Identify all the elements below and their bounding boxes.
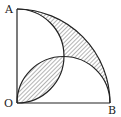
- label-O: O: [4, 98, 13, 109]
- label-A: A: [5, 4, 13, 15]
- label-B: B: [108, 105, 116, 116]
- geometry-diagram: [0, 0, 121, 117]
- shaded-lens: [17, 57, 64, 104]
